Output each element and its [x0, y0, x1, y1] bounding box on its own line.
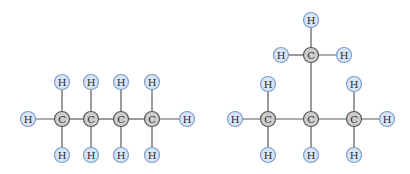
- carbon-atom: C: [304, 48, 319, 63]
- hydrogen-atom: H: [145, 75, 160, 90]
- hydrogen-atom: H: [347, 148, 362, 163]
- atom-label: C: [307, 114, 315, 125]
- carbon-atom: C: [261, 112, 276, 127]
- atom-label: H: [183, 114, 192, 125]
- bonds: [28, 82, 187, 155]
- atom-label: H: [350, 79, 359, 90]
- atom-label: C: [117, 114, 125, 125]
- isobutane-structure: CCCCHHHHHHHHHH: [228, 13, 395, 163]
- hydrogen-atom: H: [84, 75, 99, 90]
- hydrogen-atom: H: [55, 148, 70, 163]
- carbon-atom: C: [347, 112, 362, 127]
- atom-label: H: [307, 15, 316, 26]
- hydrogen-atom: H: [114, 75, 129, 90]
- hydrogen-atom: H: [145, 148, 160, 163]
- hydrogen-atom: H: [347, 77, 362, 92]
- atom-label: H: [264, 79, 273, 90]
- hydrogen-atom: H: [261, 77, 276, 92]
- molecule-canvas: CCCCHHHHHHHHHH CCCCHHHHHHHHHH: [0, 0, 410, 174]
- carbon-atom: C: [145, 112, 160, 127]
- atom-label: H: [340, 50, 349, 61]
- atom-label: H: [148, 150, 157, 161]
- bonds: [235, 20, 387, 155]
- hydrogen-atom: H: [228, 112, 243, 127]
- atom-label: C: [148, 114, 156, 125]
- atom-label: C: [350, 114, 358, 125]
- atom-label: H: [87, 150, 96, 161]
- hydrogen-atom: H: [114, 148, 129, 163]
- hydrogen-atom: H: [380, 112, 395, 127]
- hydrogen-atom: H: [21, 112, 36, 127]
- atom-label: H: [58, 77, 67, 88]
- atom-label: H: [350, 150, 359, 161]
- carbon-atom: C: [55, 112, 70, 127]
- hydrogen-atom: H: [180, 112, 195, 127]
- carbon-atom: C: [114, 112, 129, 127]
- hydrogen-atom: H: [337, 48, 352, 63]
- atom-label: H: [58, 150, 67, 161]
- atom-label: C: [87, 114, 95, 125]
- atom-label: C: [58, 114, 66, 125]
- atom-label: H: [117, 77, 126, 88]
- atom-label: H: [277, 50, 286, 61]
- atom-label: C: [307, 50, 315, 61]
- atom-label: H: [24, 114, 33, 125]
- atom-label: H: [231, 114, 240, 125]
- atom-label: H: [148, 77, 157, 88]
- carbon-atom: C: [84, 112, 99, 127]
- atom-label: C: [264, 114, 272, 125]
- hydrogen-atom: H: [261, 148, 276, 163]
- carbon-atom: C: [304, 112, 319, 127]
- atom-label: H: [264, 150, 273, 161]
- atom-label: H: [87, 77, 96, 88]
- hydrogen-atom: H: [304, 13, 319, 28]
- atom-label: H: [117, 150, 126, 161]
- hydrogen-atom: H: [84, 148, 99, 163]
- hydrogen-atom: H: [55, 75, 70, 90]
- structural-formula-diagram: CCCCHHHHHHHHHH CCCCHHHHHHHHHH: [0, 0, 410, 174]
- butane-structure: CCCCHHHHHHHHHH: [21, 75, 195, 163]
- hydrogen-atom: H: [304, 148, 319, 163]
- atom-label: H: [383, 114, 392, 125]
- hydrogen-atom: H: [274, 48, 289, 63]
- atom-label: H: [307, 150, 316, 161]
